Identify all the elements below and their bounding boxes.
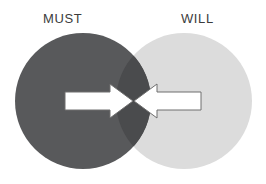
label-must: MUST	[43, 12, 82, 25]
label-will: WILL	[181, 12, 214, 25]
venn-diagram: MUST WILL	[0, 0, 266, 184]
venn-diagram-canvas	[0, 0, 266, 184]
